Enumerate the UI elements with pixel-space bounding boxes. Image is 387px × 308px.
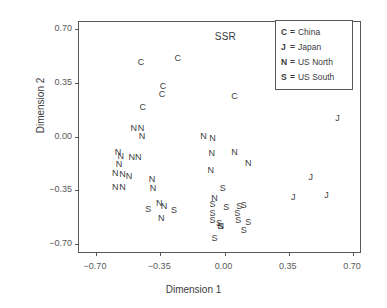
- data-point-us-south: S: [211, 233, 217, 242]
- legend-item-china: C=China: [281, 25, 352, 40]
- data-point-us-south: S: [235, 216, 241, 225]
- legend-item-japan: J=Japan: [281, 40, 352, 55]
- legend-label: China: [298, 25, 320, 40]
- y-axis-tick-label: 0.00: [34, 131, 72, 141]
- data-point-us-north: N: [208, 148, 215, 157]
- scatter-plot-figure: Dimension 2 CCCCCCJJJJNNNNNNNNNNNNNNNNNN…: [0, 0, 387, 308]
- data-point-china: C: [140, 103, 147, 112]
- x-axis-tick-label: 0.35: [279, 261, 297, 271]
- y-axis-tick-label: −0.35: [34, 184, 72, 194]
- x-axis-tick: [225, 252, 226, 256]
- legend-equals-sign: =: [290, 70, 295, 85]
- data-point-us-north: N: [200, 131, 207, 140]
- data-point-us-north: N: [112, 183, 119, 192]
- legend-equals-sign: =: [290, 25, 295, 40]
- legend-equals-sign: =: [290, 55, 295, 70]
- data-point-us-south: S: [241, 200, 247, 209]
- legend-marker: C: [281, 25, 289, 40]
- data-point-us-north: N: [158, 213, 165, 222]
- data-point-us-north: N: [245, 159, 252, 168]
- data-point-us-north: N: [130, 124, 137, 133]
- y-axis-tick: [75, 137, 79, 138]
- x-axis-tick-label: 0.70: [343, 261, 361, 271]
- x-axis-tick-label: −0.35: [148, 261, 171, 271]
- data-point-japan: J: [324, 190, 329, 199]
- x-axis-tick-label: −0.70: [84, 261, 107, 271]
- data-point-china: C: [231, 91, 238, 100]
- data-point-us-south: S: [223, 203, 229, 212]
- legend-label: US North: [298, 55, 333, 70]
- legend-label: US South: [298, 70, 334, 85]
- x-axis-tick: [96, 252, 97, 256]
- data-point-us-north: N: [119, 183, 126, 192]
- data-point-japan: J: [335, 114, 340, 123]
- legend-marker: J: [281, 40, 289, 55]
- data-point-japan: J: [291, 193, 296, 202]
- x-axis-tick-label: 0.00: [215, 261, 233, 271]
- x-axis-tick: [289, 252, 290, 256]
- data-point-us-north: N: [207, 165, 214, 174]
- data-point-japan: J: [309, 173, 314, 182]
- annotation-ssr: SSR: [215, 30, 236, 41]
- legend-item-us-south: S=US South: [281, 70, 352, 85]
- data-point-us-north: N: [139, 131, 146, 140]
- legend-label: Japan: [298, 40, 321, 55]
- legend-marker: S: [281, 70, 289, 85]
- legend-equals-sign: =: [290, 40, 295, 55]
- data-point-us-north: N: [112, 168, 119, 177]
- data-point-china: C: [138, 58, 145, 67]
- x-axis-tick: [160, 252, 161, 256]
- legend-marker: N: [281, 55, 289, 70]
- x-axis-title: Dimension 1: [0, 284, 387, 295]
- data-point-us-north: N: [126, 171, 133, 180]
- y-axis-tick-label: 0.35: [34, 77, 72, 87]
- data-point-us-north: N: [156, 198, 163, 207]
- legend: C=ChinaJ=JapanN=US NorthS=US South: [275, 20, 353, 90]
- data-point-us-north: N: [150, 183, 157, 192]
- data-point-us-south: S: [210, 216, 216, 225]
- data-point-us-north: N: [135, 153, 142, 162]
- y-axis-tick-label: 0.70: [34, 23, 72, 33]
- data-point-china: C: [159, 90, 166, 99]
- x-axis-tick: [353, 252, 354, 256]
- y-axis-tick: [75, 83, 79, 84]
- y-axis-tick-label: −0.70: [34, 238, 72, 248]
- y-axis-tick: [75, 29, 79, 30]
- data-point-us-south: S: [171, 206, 177, 215]
- legend-item-us-north: N=US North: [281, 55, 352, 70]
- data-point-us-south: S: [220, 183, 226, 192]
- data-point-us-south: S: [218, 221, 224, 230]
- data-point-china: C: [174, 54, 181, 63]
- data-point-us-south: S: [145, 204, 151, 213]
- data-point-us-south: S: [241, 226, 247, 235]
- y-axis-tick: [75, 244, 79, 245]
- data-point-us-north: N: [231, 147, 238, 156]
- data-point-us-north: N: [209, 134, 216, 143]
- y-axis-tick: [75, 190, 79, 191]
